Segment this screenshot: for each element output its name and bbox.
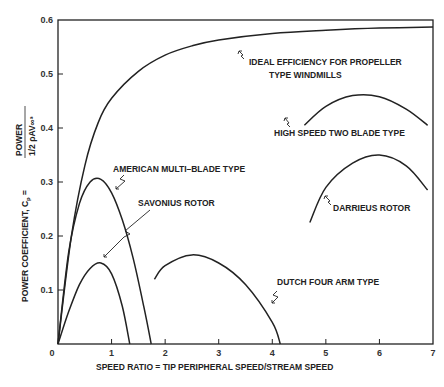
y-axis-title: POWER COEFFICIENT, Cp =: [20, 190, 31, 302]
y-axis-formula-numerator: POWER: [14, 124, 24, 156]
x-tick-label: 3: [216, 348, 221, 358]
plot-frame: [58, 20, 433, 344]
pointer-high-speed: [284, 118, 290, 127]
x-axis-title: SPEED RATIO = TIP PERIPHERAL SPEED/STREA…: [96, 362, 333, 372]
annotation-high-speed: HIGH SPEED TWO BLADE TYPE: [274, 128, 405, 138]
curve-savonius-rotor: [58, 263, 130, 344]
y-tick-label: 0.4: [40, 123, 53, 133]
x-tick-label: 1: [109, 348, 114, 358]
y-tick-label: 0.3: [40, 177, 53, 187]
pointer-ideal: [238, 51, 244, 59]
curve-high-speed-two-blade-type: [304, 95, 427, 126]
annotation-american: AMERICAN MULTI–BLADE TYPE: [113, 164, 245, 174]
y-tick-label: 0.5: [40, 69, 53, 79]
y-axis-formula-denominator: 1/2 ρAV∞³: [27, 116, 37, 156]
pointer-dutch: [272, 291, 278, 303]
x-tick-label: 7: [430, 348, 435, 358]
y-tick-label: 0.1: [40, 285, 53, 295]
y-tick-label: 0.6: [40, 15, 53, 25]
x-tick-label: 4: [270, 348, 275, 358]
power-coefficient-chart: 01234567 0.10.20.30.40.50.6 IDEAL EFFICI…: [0, 0, 444, 387]
x-tick-label: 2: [163, 348, 168, 358]
annotation-ideal-line1: IDEAL EFFICIENCY FOR PROPELLER: [249, 57, 402, 67]
pointer-darrieus: [324, 196, 331, 205]
curve-ideal-efficiency-for-propeller-type-windmills: [58, 27, 433, 344]
x-tick-label: 0: [49, 348, 54, 358]
curve-dutch-four-arm-type: [154, 255, 280, 344]
y-tick-label: 0.2: [40, 231, 53, 241]
annotation-dutch: DUTCH FOUR ARM TYPE: [277, 277, 379, 287]
annotation-savonius: SAVONIUS ROTOR: [138, 198, 215, 208]
x-tick-label: 5: [323, 348, 328, 358]
annotation-darrieus: DARRIEUS ROTOR: [333, 203, 410, 213]
x-tick-label: 6: [377, 348, 382, 358]
pointer-american: [116, 175, 125, 189]
annotation-ideal-line2: TYPE WINDMILLS: [269, 70, 342, 80]
